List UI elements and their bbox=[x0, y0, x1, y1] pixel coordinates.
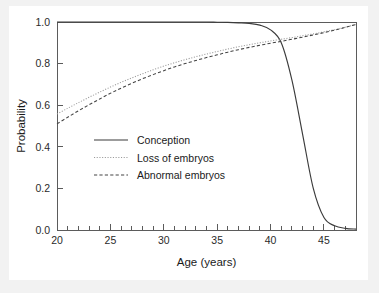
curve-conception bbox=[57, 22, 356, 229]
y-axis-ticks bbox=[57, 22, 63, 230]
legend-label: Conception bbox=[137, 134, 190, 146]
x-axis-ticks bbox=[57, 224, 356, 230]
plot-frame bbox=[57, 22, 356, 230]
figure-canvas: 202530354045 0.00.20.40.60.81.0 Concepti… bbox=[9, 6, 368, 280]
y-tick-label: 0.0 bbox=[35, 224, 50, 236]
x-tick-label: 40 bbox=[265, 234, 277, 246]
y-tick-label: 0.4 bbox=[35, 141, 50, 153]
y-tick-label: 0.6 bbox=[35, 99, 50, 111]
legend-label: Loss of embryos bbox=[137, 152, 214, 164]
x-axis-tick-labels: 202530354045 bbox=[51, 234, 330, 246]
x-tick-label: 35 bbox=[211, 234, 223, 246]
figure-container: 202530354045 0.00.20.40.60.81.0 Concepti… bbox=[0, 0, 379, 293]
data-curves bbox=[57, 22, 356, 229]
y-axis-title: Probability bbox=[15, 99, 27, 153]
y-tick-label: 0.2 bbox=[35, 182, 50, 194]
y-tick-label: 0.8 bbox=[35, 57, 50, 69]
y-tick-label: 1.0 bbox=[35, 16, 50, 28]
x-tick-label: 30 bbox=[158, 234, 170, 246]
x-tick-label: 45 bbox=[318, 234, 330, 246]
legend-label: Abnormal embryos bbox=[137, 169, 225, 181]
line-chart: 202530354045 0.00.20.40.60.81.0 Concepti… bbox=[9, 6, 368, 280]
curve-abnormal-embryos bbox=[57, 25, 356, 124]
curve-loss-of-embryos bbox=[57, 25, 356, 114]
x-tick-label: 20 bbox=[51, 234, 63, 246]
x-axis-title: Age (years) bbox=[177, 256, 237, 268]
x-tick-label: 25 bbox=[105, 234, 117, 246]
chart-legend: ConceptionLoss of embryosAbnormal embryo… bbox=[94, 134, 225, 181]
y-axis-tick-labels: 0.00.20.40.60.81.0 bbox=[35, 16, 50, 236]
